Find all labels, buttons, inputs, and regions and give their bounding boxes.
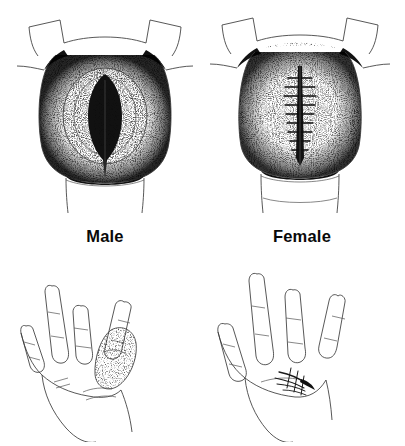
hand-finger-little <box>21 325 45 372</box>
male-torso-outline <box>29 20 181 56</box>
hand-finger-little <box>218 323 247 381</box>
caption-female: Female <box>205 224 399 248</box>
hand-thumb-scar <box>275 368 315 395</box>
hand-finger-ring <box>45 285 69 363</box>
female-torso-outline <box>222 18 378 54</box>
male-hand-svg <box>8 262 202 442</box>
hand-palm-and-wrist <box>218 332 332 442</box>
female-anatomy-svg <box>205 8 399 213</box>
caption-male: Male <box>8 224 202 248</box>
female-hand-svg <box>205 262 399 442</box>
figure-root: Male Female <box>0 0 405 446</box>
hand-finger-index <box>319 295 346 359</box>
female-hand-illustration <box>205 262 399 442</box>
male-anatomy-illustration <box>8 8 202 213</box>
hand-thumb-shaded <box>95 328 136 389</box>
male-hand-illustration <box>8 262 202 442</box>
hand-finger-middle <box>285 289 306 362</box>
hand-finger-ring <box>249 273 274 364</box>
male-anatomy-svg <box>8 8 202 213</box>
hand-finger-middle <box>73 305 93 364</box>
female-anatomy-illustration <box>205 8 399 213</box>
